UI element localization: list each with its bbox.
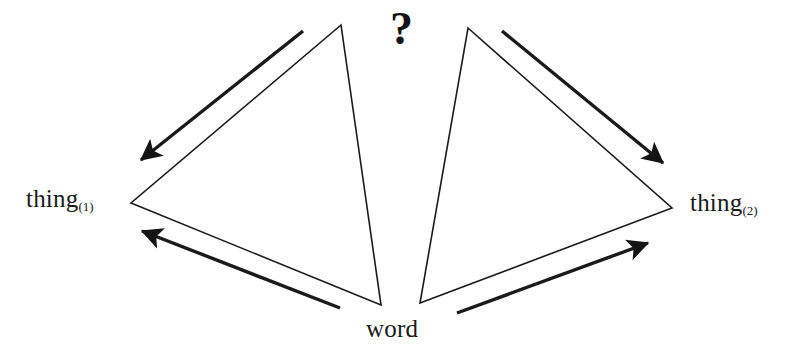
- question-mark-symbol: ?: [390, 6, 413, 52]
- arrow-upper-left: [141, 31, 303, 160]
- diagram-canvas: thing(1) thing(2) word ?: [0, 0, 797, 357]
- arrow-upper-left-line: [141, 31, 303, 160]
- arrow-lower-left: [142, 231, 340, 308]
- thing2-subscript: (2): [742, 203, 757, 218]
- word-base: word: [366, 315, 418, 342]
- node-label-thing1: thing(1): [26, 186, 94, 213]
- thing1-base: thing: [26, 185, 78, 212]
- arrow-upper-right-line: [502, 31, 663, 163]
- node-label-word: word: [366, 316, 418, 341]
- node-label-thing2: thing(2): [690, 190, 758, 217]
- thing1-subscript: (1): [78, 199, 93, 214]
- arrow-lower-left-line: [142, 231, 340, 308]
- thing2-base: thing: [690, 189, 742, 216]
- arrow-upper-right: [502, 31, 663, 163]
